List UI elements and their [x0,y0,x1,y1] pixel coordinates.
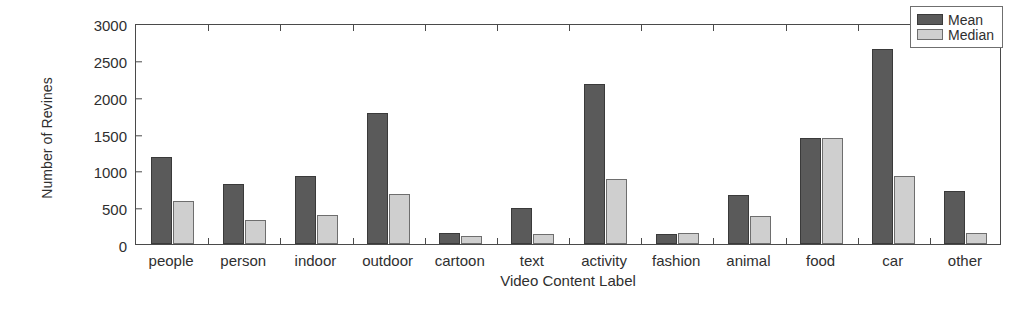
bar-cluster [584,25,627,244]
bar-cluster [223,25,266,244]
bar-cluster [367,25,410,244]
x-tick-label: text [520,252,544,269]
bar-median [966,233,987,244]
y-axis-title: Number of Revines [39,28,55,248]
x-tick-mark [497,238,498,244]
x-tick-mark [713,238,714,244]
bar-median [317,215,338,244]
legend-item-median: Median [917,27,994,42]
x-tick-mark [930,238,931,244]
plot-area: 050010001500200025003000 [135,24,1001,245]
y-tick-label: 3000 [94,17,127,34]
x-tick-mark [353,238,354,244]
legend-swatch-median-icon [917,29,943,40]
y-tick-label: 2000 [94,90,127,107]
bar-cluster [944,25,987,244]
legend-item-mean: Mean [917,12,994,27]
x-tick-mark-top [641,25,642,31]
x-tick-mark-top [786,25,787,31]
x-tick-label: outdoor [362,252,413,269]
bar-median [894,176,915,244]
x-tick-mark-top [353,25,354,31]
bar-median [173,201,194,244]
x-axis-title: Video Content Label [135,272,1001,289]
x-tick-mark-top [497,25,498,31]
x-tick-mark [425,238,426,244]
bar-cluster [656,25,699,244]
bar-mean [656,234,677,244]
x-tick-mark [786,238,787,244]
x-tick-label: fashion [652,252,700,269]
bar-mean [295,176,316,244]
bar-median [389,194,410,244]
chart-legend: Mean Median [910,6,1003,48]
x-tick-mark-top [713,25,714,31]
x-tick-mark [208,238,209,244]
legend-label-median: Median [948,28,994,42]
bar-mean [800,138,821,244]
bar-cluster [872,25,915,244]
bar-cluster [511,25,554,244]
x-tick-mark-top [208,25,209,31]
y-tick-label: 500 [102,201,127,218]
bar-chart-figure: Number of Revines 0500100015002000250030… [0,0,1011,309]
x-tick-label: other [948,252,982,269]
y-tick-label: 2500 [94,53,127,70]
y-tick-mark [136,208,142,209]
bar-mean [584,84,605,244]
x-tick-label: person [220,252,266,269]
x-tick-mark [280,238,281,244]
x-tick-label: people [149,252,194,269]
y-tick-mark [136,61,142,62]
bar-mean [223,184,244,244]
bar-median [750,216,771,244]
bar-cluster [439,25,482,244]
bar-median [606,179,627,244]
x-tick-mark-top [280,25,281,31]
bar-median [533,234,554,244]
bar-median [678,233,699,244]
bar-mean [439,233,460,244]
legend-swatch-mean-icon [917,14,943,25]
bar-cluster [295,25,338,244]
bar-median [461,236,482,244]
bar-mean [872,49,893,244]
y-tick-label: 1000 [94,164,127,181]
x-tick-label: indoor [295,252,337,269]
y-tick-mark [136,135,142,136]
y-tick-label: 0 [119,238,127,255]
x-tick-mark-top [569,25,570,31]
x-tick-mark [858,238,859,244]
bar-cluster [800,25,843,244]
bar-mean [728,195,749,244]
bar-mean [944,191,965,244]
bar-mean [511,208,532,244]
x-tick-label: activity [581,252,627,269]
x-tick-label: cartoon [435,252,485,269]
y-tick-mark [136,172,142,173]
x-tick-mark [569,238,570,244]
y-tick-mark [136,98,142,99]
x-tick-mark [641,238,642,244]
y-tick-label: 1500 [94,127,127,144]
bar-cluster [151,25,194,244]
bar-mean [367,113,388,244]
x-tick-label: animal [726,252,770,269]
bar-median [245,220,266,244]
x-tick-label: food [806,252,835,269]
x-tick-mark-top [858,25,859,31]
bar-median [822,138,843,244]
x-tick-label: car [882,252,903,269]
bar-mean [151,157,172,244]
bar-cluster [728,25,771,244]
x-tick-mark-top [425,25,426,31]
legend-label-mean: Mean [948,13,983,27]
